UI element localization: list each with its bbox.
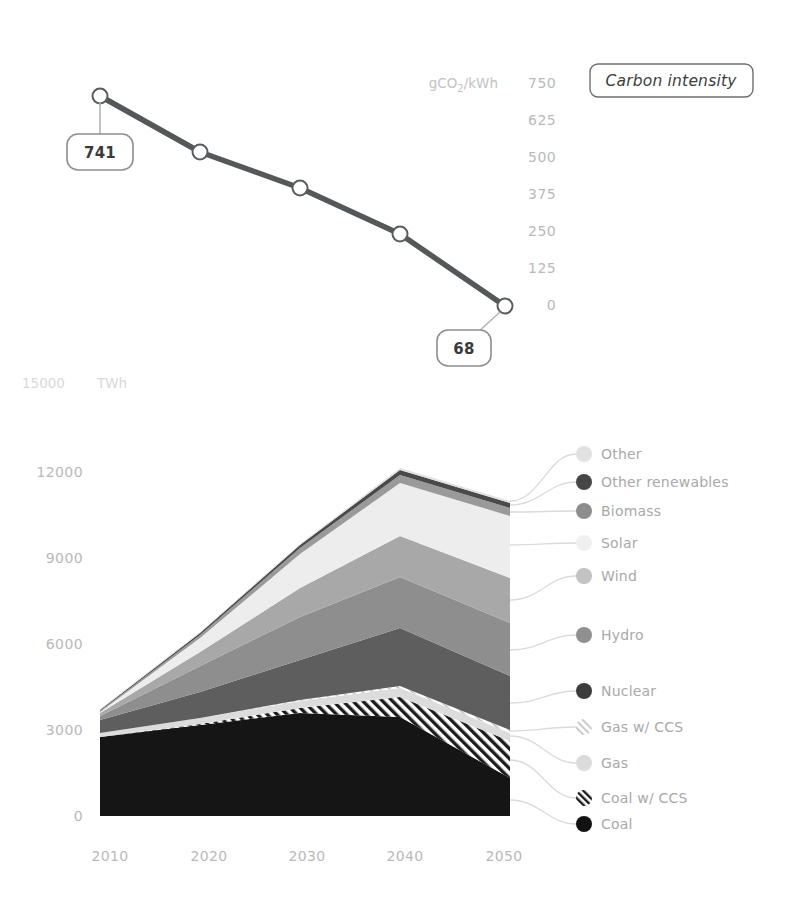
line-unit-label: gCO2/kWh <box>429 75 498 94</box>
legend-item-other-renewables[interactable]: Other renewables <box>576 474 729 490</box>
leader-line-gas-w-ccs <box>510 727 576 731</box>
area-xtick-2010: 2010 <box>91 848 128 864</box>
legend-item-solar[interactable]: Solar <box>576 535 638 551</box>
leader-line-coal <box>510 800 576 824</box>
line-ytick-0: 0 <box>547 297 556 313</box>
line-marker-2030 <box>293 181 308 196</box>
area-ytick-3000: 3000 <box>46 722 83 738</box>
line-ytick-750: 750 <box>528 75 556 91</box>
legend-swatch-gas-icon <box>576 755 592 771</box>
leader-line-other-renewables <box>510 482 576 505</box>
line-ytick-500: 500 <box>528 149 556 165</box>
area-ytick-6000: 6000 <box>46 636 83 652</box>
carbon-intensity-line <box>100 96 505 306</box>
line-unit-main: gCO <box>429 75 458 91</box>
legend-item-coal[interactable]: Coal <box>576 816 633 832</box>
carbon-intensity-badge-label: Carbon intensity <box>605 72 737 90</box>
legend-swatch-biomass-icon <box>576 503 592 519</box>
area-ytick-9000: 9000 <box>46 550 83 566</box>
legend-swatch-nuclear-icon <box>576 683 592 699</box>
line-marker-2050 <box>498 299 513 314</box>
line-ytick-375: 375 <box>528 186 556 202</box>
legend-item-other[interactable]: Other <box>576 446 642 462</box>
chart-legend: Other Other renewables Biomass Solar Win… <box>576 446 729 832</box>
callout-value-68: 68 <box>453 340 474 358</box>
legend-item-coal-w-ccs[interactable]: Coal w/ CCS <box>576 790 688 806</box>
line-unit-tail: /kWh <box>464 75 498 91</box>
leader-line-gas <box>510 736 576 763</box>
leader-line-nuclear <box>510 691 576 703</box>
leader-line-biomass <box>510 511 576 512</box>
legend-label-coal-w-ccs: Coal w/ CCS <box>601 790 688 806</box>
legend-item-hydro[interactable]: Hydro <box>576 627 644 643</box>
area-xtick-2050: 2050 <box>485 848 522 864</box>
legend-swatch-solar-icon <box>576 535 592 551</box>
legend-label-nuclear: Nuclear <box>601 683 656 699</box>
line-marker-2020 <box>193 145 208 160</box>
legend-item-wind[interactable]: Wind <box>576 568 637 584</box>
line-ytick-625: 625 <box>528 112 556 128</box>
leader-line-hydro <box>510 635 576 650</box>
legend-item-nuclear[interactable]: Nuclear <box>576 683 656 699</box>
leader-line-solar <box>510 543 576 545</box>
area-unit-label: TWh <box>96 375 127 391</box>
legend-item-gas[interactable]: Gas <box>576 755 628 771</box>
line-ytick-125: 125 <box>528 260 556 276</box>
legend-label-gas-w-ccs: Gas w/ CCS <box>601 719 683 735</box>
line-marker-2040 <box>393 227 408 242</box>
power-generation-stacked-area-chart: 12000 9000 6000 3000 0 <box>0 400 787 907</box>
stacked-areas <box>100 468 510 816</box>
legend-item-biomass[interactable]: Biomass <box>576 503 661 519</box>
legend-label-other-renewables: Other renewables <box>601 474 729 490</box>
legend-swatch-other-renewables-icon <box>576 474 592 490</box>
area-xtick-2030: 2030 <box>288 848 325 864</box>
chart-page: 750 625 500 375 250 125 0 gCO2/kWh 741 6… <box>0 0 787 907</box>
area-xtick-2020: 2020 <box>190 848 227 864</box>
legend-label-biomass: Biomass <box>601 503 661 519</box>
area-ytick-0: 0 <box>74 808 83 824</box>
legend-swatch-wind-icon <box>576 568 592 584</box>
legend-swatch-hydro-icon <box>576 627 592 643</box>
line-ytick-250: 250 <box>528 223 556 239</box>
legend-label-other: Other <box>601 446 642 462</box>
callout-value-741: 741 <box>84 144 116 162</box>
legend-swatch-coal-icon <box>576 816 592 832</box>
leader-line-wind <box>510 576 576 600</box>
area-xtick-2040: 2040 <box>386 848 423 864</box>
legend-label-solar: Solar <box>601 535 638 551</box>
legend-swatch-coal-w-ccs-icon <box>576 790 592 806</box>
leader-line-coal-w-ccs <box>510 760 576 798</box>
legend-label-coal: Coal <box>601 816 633 832</box>
line-marker-2010 <box>93 89 108 104</box>
area-ytick-12000: 12000 <box>36 464 83 480</box>
area-top-value-label: 15000 <box>22 375 65 391</box>
legend-item-gas-w-ccs[interactable]: Gas w/ CCS <box>576 719 683 735</box>
legend-swatch-other-icon <box>576 446 592 462</box>
legend-label-gas: Gas <box>601 755 628 771</box>
legend-leader-lines <box>510 454 576 824</box>
legend-label-wind: Wind <box>601 568 637 584</box>
legend-swatch-gas-w-ccs-icon <box>576 719 592 735</box>
legend-label-hydro: Hydro <box>601 627 644 643</box>
carbon-intensity-line-chart: 750 625 500 375 250 125 0 gCO2/kWh 741 6… <box>0 0 787 400</box>
